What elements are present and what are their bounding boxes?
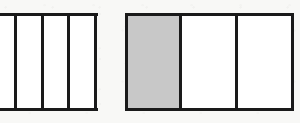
figure-canvas: Two partitioned rectangular bar models L… (0, 0, 300, 123)
left-cell-1 (15, 15, 42, 110)
right-bar-model (127, 13, 293, 111)
right-cell-2 (181, 15, 237, 110)
bar-models-figure (0, 0, 300, 123)
left-cell-3 (68, 15, 95, 110)
left-bar-model (0, 13, 98, 111)
left-cell-2 (42, 15, 68, 110)
right-cell-1-shaded (127, 15, 181, 110)
left-cell-0 (0, 15, 15, 110)
right-cell-3 (237, 15, 293, 110)
